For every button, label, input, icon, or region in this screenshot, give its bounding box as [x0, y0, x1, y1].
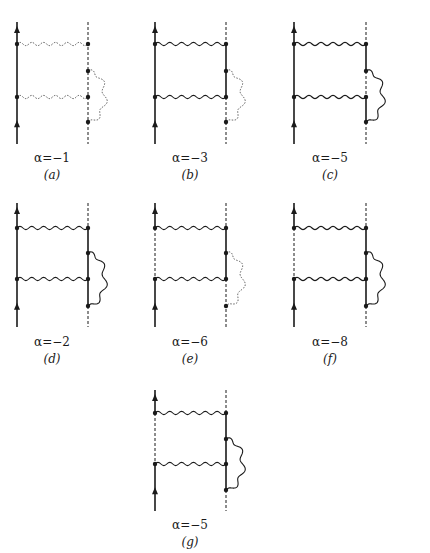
self-energy-photon-loop — [226, 438, 245, 490]
vertex-dot — [292, 95, 296, 99]
panel-label-g: (g) — [135, 535, 245, 549]
vertex-dot — [153, 277, 157, 281]
arrow-up-icon — [291, 303, 297, 310]
vertex-dot — [364, 42, 368, 46]
vertex-dot — [15, 277, 19, 281]
vertex-dot — [224, 42, 228, 46]
panel-label-a: (a) — [0, 168, 107, 182]
feynman-diagram-figure: α=−1 (a) α=−3 (b) α=−5 (c) α=−2 (d) α=−6… — [0, 0, 430, 553]
vertex-dot — [224, 462, 228, 466]
alpha-label-b: α=−3 — [135, 151, 245, 165]
alpha-label-c: α=−5 — [275, 151, 385, 165]
diagram-panel-e — [152, 203, 245, 327]
arrow-up-icon — [291, 26, 297, 33]
self-energy-photon-loop — [226, 252, 245, 306]
lower-photon-line — [17, 95, 88, 98]
vertex-dot — [224, 411, 228, 415]
vertex-dot — [364, 251, 368, 255]
vertex-dot — [364, 95, 368, 99]
arrow-up-icon — [152, 120, 158, 127]
diagram-panel-g — [152, 390, 245, 511]
panel-label-e: (e) — [135, 352, 245, 366]
vertex-dot — [86, 304, 90, 308]
vertex-dot — [15, 42, 19, 46]
diagram-panel-d — [14, 203, 107, 327]
arrow-up-icon — [291, 207, 297, 214]
self-energy-photon-loop — [366, 70, 385, 122]
arrow-up-icon — [152, 487, 158, 494]
arrow-up-icon — [152, 207, 158, 214]
vertex-dot — [364, 120, 368, 124]
self-energy-photon-loop — [88, 70, 107, 122]
panel-label-c: (c) — [275, 168, 385, 182]
vertex-dot — [86, 42, 90, 46]
arrow-up-icon — [291, 120, 297, 127]
vertex-dot — [224, 120, 228, 124]
lower-photon-line — [155, 277, 226, 280]
vertex-dot — [153, 95, 157, 99]
vertex-dot — [86, 226, 90, 230]
vertex-dot — [86, 69, 90, 73]
vertex-dot — [224, 69, 228, 73]
vertex-dot — [364, 69, 368, 73]
top-photon-line — [155, 226, 226, 229]
vertex-dot — [292, 277, 296, 281]
top-photon-line — [155, 42, 226, 45]
vertex-dot — [364, 226, 368, 230]
diagram-panel-c — [291, 22, 385, 144]
vertex-dot — [224, 95, 228, 99]
vertex-dot — [292, 42, 296, 46]
alpha-label-a: α=−1 — [0, 151, 107, 165]
vertex-dot — [153, 462, 157, 466]
arrow-up-icon — [152, 26, 158, 33]
vertex-dot — [224, 251, 228, 255]
alpha-label-g: α=−5 — [135, 518, 245, 532]
top-photon-line — [294, 42, 366, 45]
vertex-dot — [86, 95, 90, 99]
vertex-dot — [153, 42, 157, 46]
self-energy-photon-loop — [226, 70, 245, 122]
panel-label-b: (b) — [135, 168, 245, 182]
lower-photon-line — [155, 95, 226, 98]
vertex-dot — [15, 226, 19, 230]
top-photon-line — [155, 411, 226, 414]
diagram-panel-b — [152, 22, 245, 144]
vertex-dot — [224, 437, 228, 441]
vertex-dot — [364, 304, 368, 308]
vertex-dot — [153, 411, 157, 415]
lower-photon-line — [294, 95, 366, 98]
self-energy-photon-loop — [366, 252, 385, 306]
vertex-dot — [86, 251, 90, 255]
diagram-panel-a — [14, 22, 107, 144]
top-photon-line — [17, 42, 88, 45]
diagram-panel-f — [291, 203, 385, 327]
vertex-dot — [153, 226, 157, 230]
alpha-label-e: α=−6 — [135, 335, 245, 349]
panel-label-d: (d) — [0, 352, 107, 366]
vertex-dot — [15, 95, 19, 99]
vertex-dot — [364, 277, 368, 281]
arrow-up-icon — [152, 394, 158, 401]
arrow-up-icon — [14, 207, 20, 214]
self-energy-photon-loop — [88, 252, 107, 306]
alpha-label-d: α=−2 — [0, 335, 107, 349]
vertex-dot — [224, 304, 228, 308]
vertex-dot — [292, 226, 296, 230]
vertex-dot — [86, 277, 90, 281]
vertex-dot — [224, 226, 228, 230]
vertex-dot — [224, 488, 228, 492]
alpha-label-f: α=−8 — [275, 335, 385, 349]
vertex-dot — [86, 120, 90, 124]
arrow-up-icon — [14, 120, 20, 127]
diagram-canvas — [0, 0, 430, 553]
arrow-up-icon — [14, 303, 20, 310]
arrow-up-icon — [152, 303, 158, 310]
top-photon-line — [294, 226, 366, 229]
lower-photon-line — [294, 277, 366, 280]
panel-label-f: (f) — [275, 352, 385, 366]
vertex-dot — [224, 277, 228, 281]
arrow-up-icon — [14, 26, 20, 33]
lower-photon-line — [155, 462, 226, 465]
lower-photon-line — [17, 277, 88, 280]
top-photon-line — [17, 226, 88, 229]
